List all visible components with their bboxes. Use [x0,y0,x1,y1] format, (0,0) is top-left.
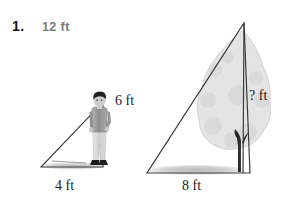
person-hand-left [89,127,93,132]
label-tree-height: ? ft [249,88,267,104]
label-person-height: 6 ft [115,93,134,109]
person-eye-left [96,99,98,101]
label-base-right: 8 ft [182,178,201,194]
person-pants [93,131,106,161]
label-base-left: 4 ft [55,178,74,194]
problem-figure-page: 1. 12 ft [0,0,305,209]
person-shoe-right [99,160,108,165]
person-shirt [92,107,107,132]
person-eye-right [101,99,103,101]
person-shoe-left [90,160,100,165]
similar-triangles-diagram [0,0,305,209]
person-figure [89,92,111,166]
person-hand-right [105,126,109,131]
